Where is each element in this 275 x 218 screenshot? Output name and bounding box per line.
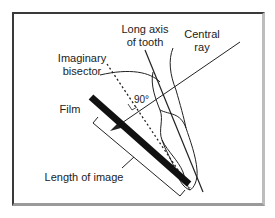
label-film: Film: [60, 103, 81, 115]
label-central-ray-1: Central: [184, 28, 219, 40]
central-ray-line: [116, 42, 240, 127]
label-central-ray-2: ray: [194, 41, 210, 53]
length-bracket: [93, 117, 185, 196]
bisecting-angle-diagram: Long axis of tooth Central ray Imaginary…: [0, 0, 275, 218]
label-bisector-2: bisector: [63, 65, 102, 77]
label-long-axis-1: Long axis: [121, 23, 169, 35]
label-long-axis-2: of tooth: [127, 36, 164, 48]
length-leader-line: [122, 157, 134, 168]
label-angle: 90°: [134, 94, 149, 105]
label-length-of-image: Length of image: [45, 171, 124, 183]
label-bisector-1: Imaginary: [58, 52, 107, 64]
